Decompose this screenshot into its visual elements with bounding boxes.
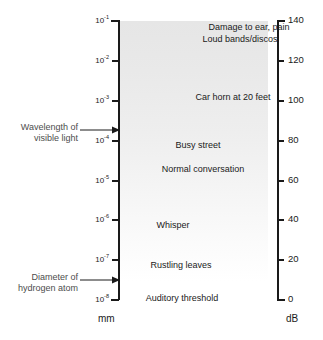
- right-axis-tick-label-120: 120: [288, 55, 304, 64]
- left-tick-mantissa-3: 10: [95, 96, 104, 105]
- right-axis-tick-20: [277, 259, 284, 261]
- right-axis-tick-label-0: 0: [288, 294, 293, 303]
- center-label-car-horn: Car horn at 20 feet: [195, 92, 270, 103]
- right-axis-unit-label: dB: [286, 313, 298, 324]
- left-axis-tick-7: [112, 259, 119, 261]
- annotation-arrow-hydrogen-atom: [80, 274, 120, 286]
- left-axis-tick-label-1: 10-1: [95, 16, 109, 25]
- center-label-auditory-threshold: Auditory threshold: [146, 293, 219, 304]
- left-axis-tick-1: [112, 20, 119, 22]
- left-tick-mantissa-8: 10: [95, 295, 104, 304]
- left-tick-exponent-3: -3: [104, 94, 109, 100]
- left-tick-mantissa-5: 10: [95, 176, 104, 185]
- right-axis-tick-0: [277, 299, 284, 301]
- left-axis-tick-label-2: 10-2: [95, 56, 109, 65]
- right-axis-tick-120: [277, 60, 284, 62]
- right-axis-spine: [277, 20, 279, 300]
- annotation-hydrogen-atom-line1: Diameter of: [0, 272, 78, 283]
- sound-scale-figure: 10-1 10-2 10-3 10-4 10-5 10-6 10-7 10-8 …: [0, 0, 323, 340]
- center-label-damage-to-ear: Damage to ear, pain: [208, 22, 289, 33]
- left-axis-tick-5: [112, 180, 119, 182]
- left-tick-exponent-1: -1: [104, 14, 109, 20]
- annotation-visible-light-line1: Wavelength of: [0, 122, 78, 133]
- right-axis-tick-100: [277, 100, 284, 102]
- right-axis-tick-label-80: 80: [288, 135, 299, 144]
- left-tick-exponent-2: -2: [104, 54, 109, 60]
- left-axis-tick-4: [112, 140, 119, 142]
- left-axis-tick-label-3: 10-3: [95, 96, 109, 105]
- right-axis-tick-60: [277, 180, 284, 182]
- right-axis-tick-40: [277, 219, 284, 221]
- center-label-busy-street: Busy street: [175, 140, 220, 151]
- right-axis-tick-label-140: 140: [288, 15, 304, 24]
- left-axis-tick-6: [112, 219, 119, 221]
- left-tick-exponent-5: -5: [104, 174, 109, 180]
- left-tick-exponent-7: -7: [104, 253, 109, 259]
- left-tick-mantissa-4: 10: [95, 136, 104, 145]
- left-axis-tick-2: [112, 60, 119, 62]
- left-tick-exponent-8: -8: [104, 293, 109, 299]
- left-axis-tick-label-8: 10-8: [95, 295, 109, 304]
- right-axis-tick-label-100: 100: [288, 95, 304, 104]
- annotation-hydrogen-atom: Diameter of hydrogen atom: [0, 272, 78, 293]
- center-label-rustling-leaves: Rustling leaves: [150, 260, 211, 271]
- left-axis-unit-label: mm: [98, 313, 115, 324]
- right-axis-tick-label-60: 60: [288, 175, 299, 184]
- left-axis-spine: [118, 20, 120, 300]
- center-label-normal-conversation: Normal conversation: [162, 164, 245, 175]
- left-tick-mantissa-6: 10: [95, 215, 104, 224]
- left-tick-exponent-6: -6: [104, 213, 109, 219]
- annotation-arrow-visible-light: [80, 124, 120, 136]
- shaded-band: [119, 21, 268, 299]
- left-axis-tick-label-5: 10-5: [95, 176, 109, 185]
- annotation-visible-light-line2: visible light: [0, 133, 78, 144]
- left-axis-tick-label-6: 10-6: [95, 215, 109, 224]
- left-axis-tick-label-4: 10-4: [95, 136, 109, 145]
- center-label-loud-bands: Loud bands/discos: [202, 34, 277, 45]
- annotation-visible-light: Wavelength of visible light: [0, 122, 78, 143]
- left-tick-mantissa-1: 10: [95, 16, 104, 25]
- right-axis-tick-label-20: 20: [288, 254, 299, 263]
- annotation-hydrogen-atom-line2: hydrogen atom: [0, 283, 78, 294]
- left-axis-tick-label-7: 10-7: [95, 255, 109, 264]
- left-axis-tick-3: [112, 100, 119, 102]
- center-label-whisper: Whisper: [156, 220, 189, 231]
- right-axis-tick-80: [277, 140, 284, 142]
- left-tick-mantissa-7: 10: [95, 255, 104, 264]
- left-tick-mantissa-2: 10: [95, 56, 104, 65]
- right-axis-tick-label-40: 40: [288, 214, 299, 223]
- left-axis-tick-8: [112, 299, 119, 301]
